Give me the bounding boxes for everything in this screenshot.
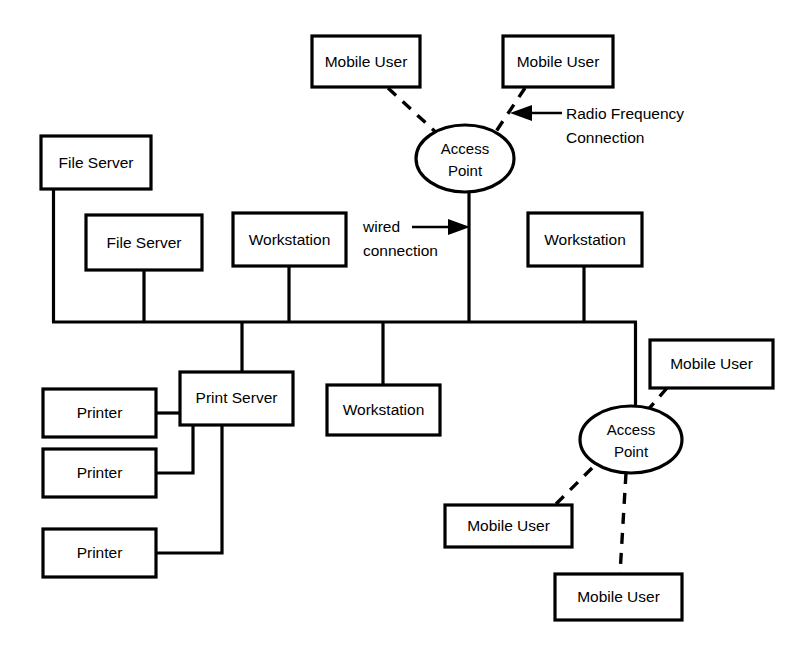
rf-link-mobile-bottom (620, 473, 626, 574)
annotation-radio-frequency: Radio Frequency Connection (510, 105, 684, 146)
rf-link-mobile-bottom-left (556, 463, 597, 504)
network-diagram-canvas: Mobile User Mobile User Access Point Rad… (0, 0, 803, 648)
wire-printer-3-to-print-server (156, 425, 222, 553)
node-file-server-2[interactable]: File Server (86, 215, 202, 270)
node-workstation-3[interactable]: Workstation (327, 385, 440, 435)
workstation-1-label: Workstation (249, 231, 331, 248)
network-diagram: Mobile User Mobile User Access Point Rad… (0, 0, 803, 648)
node-printer-3[interactable]: Printer (43, 529, 156, 577)
file-server-1-label: File Server (59, 154, 134, 171)
mobile-user-right-label: Mobile User (670, 355, 753, 372)
node-mobile-user-top-right[interactable]: Mobile User (503, 36, 613, 87)
node-print-server[interactable]: Print Server (180, 372, 293, 425)
node-workstation-1[interactable]: Workstation (233, 213, 346, 266)
node-access-point-top[interactable]: Access Point (416, 125, 514, 192)
node-access-point-bottom[interactable]: Access Point (580, 406, 682, 473)
workstation-2-label: Workstation (544, 231, 626, 248)
radio-frequency-label-line1: Radio Frequency (566, 105, 684, 122)
wire-printer-2-to-print-server (156, 425, 193, 473)
workstation-3-label: Workstation (343, 401, 425, 418)
node-mobile-user-bottom-left[interactable]: Mobile User (445, 505, 572, 547)
radio-frequency-label-line2: Connection (566, 129, 644, 146)
access-point-top-ellipse (416, 125, 514, 192)
access-point-top-label-line1: Access (441, 140, 489, 157)
mobile-user-top-right-label: Mobile User (517, 53, 600, 70)
printer-2-label: Printer (77, 464, 123, 481)
wired-connection-label-line1: wired (362, 218, 400, 235)
mobile-user-bottom-left-label: Mobile User (467, 517, 550, 534)
printer-1-label: Printer (77, 404, 123, 421)
access-point-bottom-ellipse (580, 406, 682, 473)
file-server-2-label: File Server (107, 234, 182, 251)
node-mobile-user-top-left[interactable]: Mobile User (312, 36, 420, 87)
node-mobile-user-right[interactable]: Mobile User (650, 340, 773, 388)
access-point-top-label-line2: Point (448, 162, 483, 179)
printer-3-label: Printer (77, 544, 123, 561)
mobile-user-bottom-label: Mobile User (577, 588, 660, 605)
node-mobile-user-bottom[interactable]: Mobile User (555, 574, 682, 620)
wired-connection-arrowhead (448, 219, 470, 235)
node-workstation-2[interactable]: Workstation (528, 213, 642, 266)
rf-link-mobile-top-left (388, 88, 441, 137)
print-server-label: Print Server (196, 389, 278, 406)
node-file-server-1[interactable]: File Server (41, 136, 151, 189)
node-printer-2[interactable]: Printer (43, 449, 156, 497)
mobile-user-top-left-label: Mobile User (325, 53, 408, 70)
node-printer-1[interactable]: Printer (43, 389, 156, 437)
wired-connection-label-line2: connection (363, 242, 438, 259)
annotation-wired-connection: wired connection (362, 218, 470, 259)
access-point-bottom-label-line2: Point (614, 443, 649, 460)
access-point-bottom-label-line1: Access (607, 421, 655, 438)
